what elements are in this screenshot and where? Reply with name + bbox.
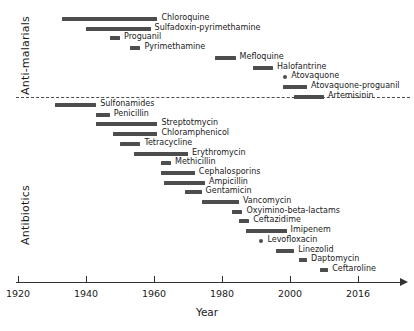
timeline-row: Ceftaroline [0, 265, 414, 277]
timeline-bar-label: Pyrimethamine [144, 41, 205, 53]
x-tick-label: 2000 [278, 288, 302, 299]
timeline-bar[interactable] [253, 66, 273, 70]
timeline-bar[interactable] [113, 132, 157, 136]
timeline-bar[interactable] [96, 113, 110, 117]
timeline-bar[interactable] [246, 229, 287, 233]
timeline-bar[interactable] [134, 152, 188, 156]
plot-area: ChloroquineSulfadoxin-pyrimethamineProgu… [0, 0, 414, 290]
x-tick-mark [18, 276, 19, 283]
x-tick-mark [358, 276, 359, 283]
timeline-bar[interactable] [320, 268, 329, 272]
timeline-bar[interactable] [239, 219, 249, 223]
timeline-bar[interactable] [62, 17, 157, 21]
x-tick-label: 2016 [346, 288, 370, 299]
x-axis-line [16, 282, 402, 283]
timeline-bar[interactable] [164, 181, 205, 185]
x-tick-mark [154, 276, 155, 283]
timeline-bar[interactable] [120, 142, 140, 146]
x-tick-label: 1960 [142, 288, 166, 299]
timeline-bar[interactable] [232, 210, 242, 214]
timeline-bar[interactable] [161, 161, 171, 165]
timeline-bar-label: Penicillin [114, 108, 149, 120]
x-axis-title: Year [0, 306, 414, 318]
x-tick-label: 1980 [210, 288, 234, 299]
timeline-bar[interactable] [299, 258, 308, 262]
timeline-bar-label: Sulfadoxin-pyrimethamine [155, 22, 261, 34]
timeline-bar-label: Tetracycline [144, 137, 192, 149]
x-tick-label: 1920 [6, 288, 30, 299]
x-axis-arrow-icon [400, 278, 408, 286]
timeline-bar[interactable] [259, 239, 263, 243]
x-tick-mark [222, 276, 223, 283]
x-tick-label: 1940 [74, 288, 98, 299]
timeline-bar[interactable] [215, 56, 235, 60]
timeline-bar[interactable] [161, 171, 195, 175]
timeline-chart: Anti-malarials Antibiotics ChloroquineSu… [0, 0, 414, 331]
timeline-bar[interactable] [110, 36, 120, 40]
timeline-bar[interactable] [202, 200, 239, 204]
timeline-bar[interactable] [86, 27, 151, 31]
group-separator-line [16, 97, 410, 98]
timeline-bar-label: Ceftaroline [332, 263, 376, 275]
timeline-bar[interactable] [276, 249, 294, 253]
x-tick-mark [290, 276, 291, 283]
timeline-bar[interactable] [55, 103, 96, 107]
timeline-bar[interactable] [185, 190, 202, 194]
timeline-bar[interactable] [283, 75, 287, 79]
timeline-bar[interactable] [96, 122, 157, 126]
x-tick-mark [86, 276, 87, 283]
timeline-bar[interactable] [130, 46, 140, 50]
timeline-bar[interactable] [283, 85, 307, 89]
